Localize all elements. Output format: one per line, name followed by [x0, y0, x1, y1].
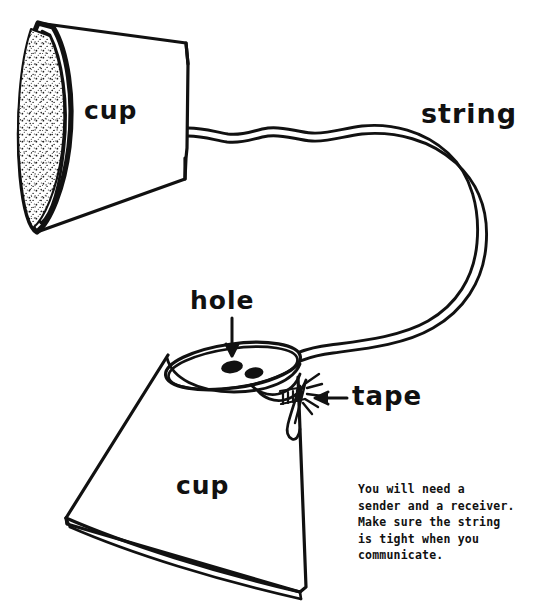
instruction-text-block: You will need a sender and a receiver. M… [358, 481, 538, 564]
label-cup-top: cup [84, 96, 138, 125]
upper-cup-shape [12, 18, 188, 240]
lower-cup-shape [66, 335, 322, 599]
hole-arrow [226, 318, 238, 356]
label-tape: tape [352, 381, 422, 411]
diagram-canvas: cup cup string hole tape You will need a… [0, 0, 548, 601]
instruction-line-3: Make sure the string [358, 514, 538, 531]
instruction-line-1: You will need a [358, 481, 538, 498]
tape-arrow [315, 392, 347, 404]
label-hole: hole [190, 286, 255, 315]
instruction-line-5: communicate. [358, 547, 538, 564]
label-cup-bottom: cup [176, 471, 230, 500]
instruction-line-2: sender and a receiver. [358, 498, 538, 515]
label-string: string [421, 98, 517, 129]
instruction-line-4: is tight when you [358, 531, 538, 548]
